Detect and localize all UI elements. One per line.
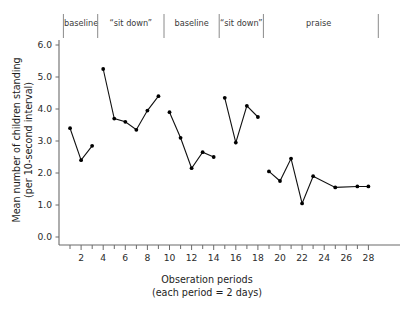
x-tick-label-12: 26 — [340, 252, 352, 263]
data-point-11 — [179, 136, 183, 140]
y-axis: 0.01.02.03.04.05.06.0 — [37, 39, 59, 245]
phase-label-2: baseline — [174, 18, 208, 28]
data-point-4 — [101, 67, 105, 71]
data-point-16 — [234, 141, 238, 145]
data-point-13 — [201, 150, 205, 154]
data-point-18 — [256, 115, 260, 119]
x-tick-label-13: 28 — [363, 252, 375, 263]
y-tick-label-2: 2.0 — [37, 167, 52, 178]
y-tick-label-0: 0.0 — [37, 231, 52, 242]
data-point-10 — [168, 110, 172, 114]
data-point-19 — [267, 170, 271, 174]
data-point-25 — [333, 186, 337, 190]
y-tick-label-4: 4.0 — [37, 103, 52, 114]
x-tick-label-9: 20 — [274, 252, 286, 263]
phase-label-3: “sit down” — [220, 18, 262, 28]
data-line-sit-down-1 — [103, 69, 158, 130]
x-tick-label-10: 22 — [296, 252, 308, 263]
data-point-1 — [68, 126, 72, 130]
phase-label-0: baseline — [64, 18, 98, 28]
x-tick-label-0: 2 — [78, 252, 84, 263]
data-point-21 — [289, 157, 293, 161]
data-point-20 — [278, 179, 282, 183]
data-point-22 — [300, 202, 304, 206]
x-axis-subtitle: (each period = 2 days) — [152, 287, 262, 298]
figure-container: baseline“sit down”baseline“sit down”prai… — [0, 0, 412, 310]
data-point-28 — [367, 185, 371, 189]
phase-label-1: “sit down” — [110, 18, 152, 28]
data-point-5 — [112, 117, 116, 121]
phase-labels: baseline“sit down”baseline“sit down”prai… — [64, 18, 331, 28]
y-tick-label-3: 3.0 — [37, 135, 52, 146]
data-point-3 — [90, 144, 94, 148]
data-lines — [70, 69, 368, 203]
data-line-praise — [269, 159, 368, 204]
data-point-23 — [311, 174, 315, 178]
x-tick-label-5: 12 — [186, 252, 198, 263]
data-point-14 — [212, 155, 216, 159]
data-point-15 — [223, 96, 227, 100]
data-point-27 — [355, 185, 359, 189]
data-points — [68, 67, 370, 205]
data-point-2 — [79, 158, 83, 162]
line-chart: baseline“sit down”baseline“sit down”prai… — [0, 0, 412, 310]
x-tick-label-2: 6 — [122, 252, 128, 263]
data-point-8 — [146, 109, 150, 113]
phase-label-4: praise — [306, 18, 331, 28]
data-line-sit-down-2 — [225, 98, 258, 143]
x-tick-label-7: 16 — [230, 252, 242, 263]
y-tick-label-6: 6.0 — [37, 39, 52, 50]
x-tick-label-1: 4 — [100, 252, 106, 263]
y-axis-title: Mean number of children standing — [11, 57, 22, 222]
x-tick-label-3: 8 — [144, 252, 150, 263]
data-point-6 — [123, 120, 127, 124]
x-tick-label-8: 18 — [252, 252, 264, 263]
data-point-17 — [245, 104, 249, 108]
data-point-7 — [134, 128, 138, 132]
y-tick-label-5: 5.0 — [37, 71, 52, 82]
data-line-baseline-2 — [170, 112, 214, 168]
y-axis-subtitle: (per 10-second interval) — [23, 82, 34, 198]
x-axis: 246810121416182022242628 — [59, 245, 400, 263]
x-tick-label-4: 10 — [164, 252, 176, 263]
data-point-9 — [157, 94, 161, 98]
x-tick-label-6: 14 — [208, 252, 220, 263]
y-tick-label-1: 1.0 — [37, 199, 52, 210]
x-axis-title: Obseration periods — [161, 274, 252, 285]
data-point-12 — [190, 166, 194, 170]
x-tick-label-11: 24 — [318, 252, 330, 263]
data-line-baseline-1 — [70, 128, 92, 160]
